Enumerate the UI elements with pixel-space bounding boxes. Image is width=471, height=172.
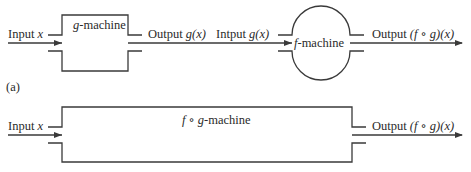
input-label-b: Input x bbox=[8, 119, 44, 133]
arrowhead-icon bbox=[455, 40, 463, 46]
f-machine-label: f-machine bbox=[294, 36, 344, 50]
arrowhead-icon bbox=[54, 40, 62, 46]
f-input-label: Intput g(x) bbox=[216, 27, 269, 41]
g-machine-label: g-machine bbox=[73, 18, 126, 32]
part-a-label: (a) bbox=[6, 80, 20, 94]
arrowhead-icon bbox=[455, 132, 463, 138]
f-output-label: Output (f ∘ g)(x) bbox=[372, 27, 454, 41]
g-output-label: Output g(x) bbox=[148, 27, 206, 41]
arrowhead-icon bbox=[54, 132, 62, 138]
part-b: Input x f ∘ g-machine Output (f ∘ g)(x) bbox=[8, 107, 463, 162]
f-machine-bottom bbox=[278, 51, 364, 80]
composition-diagram: Input x g-machine Output g(x) Intput g(x… bbox=[0, 0, 471, 172]
fg-machine-label: f ∘ g-machine bbox=[182, 113, 251, 127]
input-label-a: Input x bbox=[8, 27, 44, 41]
g-machine-bottom bbox=[48, 51, 142, 71]
output-label-b: Output (f ∘ g)(x) bbox=[372, 119, 454, 133]
f-machine-top bbox=[278, 6, 364, 35]
fg-machine-bottom bbox=[48, 143, 366, 162]
arrowhead-icon bbox=[284, 40, 292, 46]
part-a: Input x g-machine Output g(x) Intput g(x… bbox=[6, 6, 463, 94]
